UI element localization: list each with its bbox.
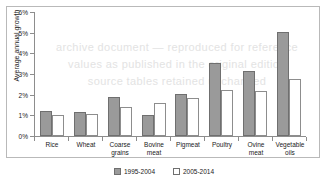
bar — [221, 90, 233, 137]
category-label: Pigmeat — [171, 141, 205, 157]
y-axis-tick-label: 0% — [19, 133, 28, 140]
bar-group — [204, 12, 238, 136]
bar — [277, 32, 289, 136]
bar — [142, 115, 154, 136]
y-axis-tick — [30, 33, 34, 34]
y-axis-tick-label: 2% — [19, 91, 28, 98]
y-axis-tick-label: 5% — [19, 29, 28, 36]
bar — [154, 103, 166, 136]
category-label: Vegetable oils — [273, 141, 307, 157]
y-axis-tick-label: 6% — [19, 9, 28, 16]
bar — [175, 94, 187, 136]
y-axis-tick-label: 4% — [19, 50, 28, 57]
chart-legend: 1995-2004 2005-2014 — [0, 168, 328, 175]
bar — [255, 91, 267, 136]
bar — [187, 98, 199, 136]
bar — [243, 71, 255, 136]
category-labels: RiceWheatCoarse grainsBovine meatPigmeat… — [35, 141, 307, 157]
category-label: Ovine meat — [239, 141, 273, 157]
category-label: Rice — [35, 141, 69, 157]
category-label: Coarse grains — [103, 141, 137, 157]
bar-groups — [35, 12, 306, 136]
bar-group — [238, 12, 272, 136]
bar-group — [137, 12, 171, 136]
category-label: Poultry — [205, 141, 239, 157]
legend-item-label: 1995-2004 — [124, 168, 155, 175]
legend-swatch-icon — [173, 168, 180, 175]
legend-swatch-icon — [114, 168, 121, 175]
legend-item-series-2: 2005-2014 — [173, 168, 214, 175]
legend-item-series-1: 1995-2004 — [114, 168, 155, 175]
bar — [209, 63, 221, 136]
bar — [52, 115, 64, 136]
plot-area: 0%1%2%3%4%5%6% — [34, 12, 306, 137]
y-axis-tick — [30, 12, 34, 13]
bar-group — [69, 12, 103, 136]
bar — [289, 79, 301, 136]
bar — [120, 107, 132, 136]
category-label: Wheat — [69, 141, 103, 157]
bar — [40, 111, 52, 136]
y-axis-tick-label: 1% — [19, 112, 28, 119]
y-axis-tick — [30, 95, 34, 96]
bar-group — [272, 12, 306, 136]
bar — [108, 97, 120, 136]
y-axis-tick-label: 3% — [19, 71, 28, 78]
y-axis-tick — [30, 53, 34, 54]
bar-group — [103, 12, 137, 136]
bar — [74, 112, 86, 136]
legend-item-label: 2005-2014 — [183, 168, 214, 175]
y-axis-tick — [30, 115, 34, 116]
y-axis-tick — [30, 74, 34, 75]
bar — [86, 114, 98, 136]
bar-group — [171, 12, 205, 136]
category-label: Bovine meat — [137, 141, 171, 157]
bar-group — [35, 12, 69, 136]
